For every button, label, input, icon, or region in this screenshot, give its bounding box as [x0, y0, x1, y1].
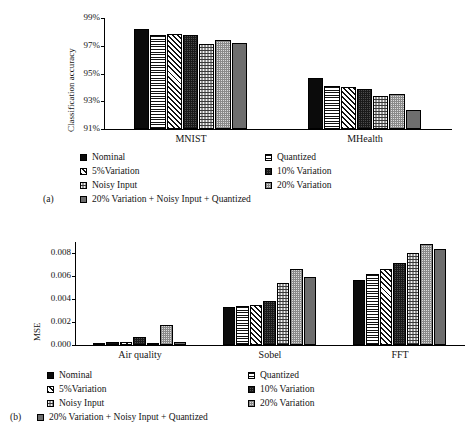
- legend-swatch-icon-quantized-b: [248, 372, 255, 379]
- bar: [290, 269, 302, 345]
- legend-item-nominal-b: Nominal: [47, 370, 92, 380]
- bar: [389, 94, 404, 129]
- y-tick-label: 99%: [56, 13, 100, 22]
- y-tick-mark: [101, 46, 104, 47]
- bar: [120, 342, 132, 345]
- legend-item-10-variation: 10% Variation: [265, 166, 331, 176]
- bar: [93, 343, 105, 345]
- chart-classification-accuracy: Classification accuracy 91%93%95%97%99% …: [0, 0, 472, 148]
- bar: [167, 34, 182, 129]
- legend-label-20-variation-b: 20% Variation: [260, 398, 314, 408]
- bar: [223, 307, 235, 345]
- legend-label-quantized: Quantized: [277, 152, 316, 162]
- bar: [357, 89, 372, 129]
- y-tick-label: 91%: [56, 124, 100, 133]
- y-tick-label: 0.008: [27, 248, 71, 257]
- legend-item-nominal: Nominal: [80, 152, 125, 162]
- bar: [366, 274, 378, 345]
- y-tick-mark: [72, 299, 75, 300]
- legend-label-noisy-input: Noisy Input: [92, 180, 137, 190]
- y-tick-label: 0.002: [27, 317, 71, 326]
- chart-a-x-axis: [104, 129, 452, 130]
- category-label: MHealth: [278, 133, 452, 144]
- legend-label-10-variation-b: 10% Variation: [260, 384, 314, 394]
- y-tick-label: 95%: [56, 69, 100, 78]
- legend-item-noisy-input-b: Noisy Input: [47, 398, 104, 408]
- legend-swatch-icon-20-variation: [265, 182, 272, 189]
- bar: [393, 263, 405, 345]
- y-tick-mark: [101, 129, 104, 130]
- category-label: FFT: [335, 349, 465, 360]
- legend-item-quantized: Quantized: [265, 152, 316, 162]
- y-tick-label: 97%: [56, 41, 100, 50]
- bar: [133, 337, 145, 345]
- category-label: Air quality: [75, 349, 205, 360]
- legend-label-5-variation-b: 5%Variation: [59, 384, 107, 394]
- legend-item-10-variation-b: 10% Variation: [248, 384, 314, 394]
- legend-item-combined-b: 20% Variation + Noisy Input + Quantized: [37, 412, 208, 422]
- chart-mse: MSE 0.0000.0020.0040.0060.008 Air qualit…: [0, 228, 472, 368]
- bar: [174, 342, 186, 345]
- legend-swatch-icon-quantized: [265, 154, 272, 161]
- legend-label-quantized-b: Quantized: [260, 370, 299, 380]
- bar: [250, 305, 262, 345]
- bar: [406, 110, 421, 129]
- bar: [341, 87, 356, 129]
- legend-swatch-icon-20-variation-b: [248, 400, 255, 407]
- y-tick-label: 0.000: [27, 340, 71, 349]
- bar: [308, 78, 323, 129]
- bar: [150, 35, 165, 129]
- y-tick-mark: [101, 101, 104, 102]
- legend-label-nominal-b: Nominal: [59, 370, 92, 380]
- legend-label-combined-b: 20% Variation + Noisy Input + Quantized: [49, 412, 208, 422]
- legend-item-quantized-b: Quantized: [248, 370, 299, 380]
- bar: [236, 306, 248, 345]
- bar: [215, 40, 230, 129]
- bar: [434, 249, 446, 345]
- chart-a-y-axis: [104, 18, 105, 130]
- bar: [232, 43, 247, 129]
- legend-item-combined: 20% Variation + Noisy Input + Quantized: [80, 194, 251, 204]
- bar: [420, 244, 432, 345]
- legend-label-nominal: Nominal: [92, 152, 125, 162]
- legend-label-combined: 20% Variation + Noisy Input + Quantized: [92, 194, 251, 204]
- legend-swatch-icon-noisy-input-b: [47, 400, 54, 407]
- legend-swatch-icon-combined-b: [37, 414, 44, 421]
- legend-swatch-icon-5-variation-b: [47, 386, 54, 393]
- figure-container: Classification accuracy 91%93%95%97%99% …: [0, 0, 472, 435]
- legend-panel-b: (b) Nominal 5%Variation Noisy Input 20% …: [0, 368, 472, 433]
- legend-item-20-variation: 20% Variation: [265, 180, 331, 190]
- chart-b-y-axis: [75, 242, 76, 346]
- bar: [147, 343, 159, 345]
- legend-label-20-variation: 20% Variation: [277, 180, 331, 190]
- bar: [160, 325, 172, 345]
- bar: [407, 253, 419, 345]
- bar: [106, 342, 118, 345]
- bar: [324, 86, 339, 129]
- legend-swatch-icon-10-variation-b: [248, 386, 255, 393]
- chart-b-x-axis: [75, 345, 465, 346]
- category-label: MNIST: [104, 133, 278, 144]
- y-tick-mark: [72, 322, 75, 323]
- bar: [304, 277, 316, 345]
- legend-swatch-icon-combined: [80, 196, 87, 203]
- legend-item-5-variation-b: 5%Variation: [47, 384, 107, 394]
- y-tick-mark: [101, 18, 104, 19]
- panel-tag-b: (b): [10, 412, 21, 422]
- legend-item-20-variation-b: 20% Variation: [248, 398, 314, 408]
- legend-swatch-icon-5-variation: [80, 168, 87, 175]
- legend-panel-a: (a) Nominal 5%Variation Noisy Input 20% …: [0, 150, 472, 215]
- panel-tag-a: (a): [43, 194, 54, 204]
- y-tick-label: 0.006: [27, 271, 71, 280]
- legend-swatch-icon-nominal-b: [47, 372, 54, 379]
- legend-label-5-variation: 5%Variation: [92, 166, 140, 176]
- bar: [353, 280, 365, 345]
- legend-swatch-icon-10-variation: [265, 168, 272, 175]
- legend-item-noisy-input: Noisy Input: [80, 180, 137, 190]
- y-tick-mark: [72, 276, 75, 277]
- bar: [183, 35, 198, 129]
- y-tick-mark: [101, 74, 104, 75]
- legend-label-10-variation: 10% Variation: [277, 166, 331, 176]
- legend-label-noisy-input-b: Noisy Input: [59, 398, 104, 408]
- legend-swatch-icon-noisy-input: [80, 182, 87, 189]
